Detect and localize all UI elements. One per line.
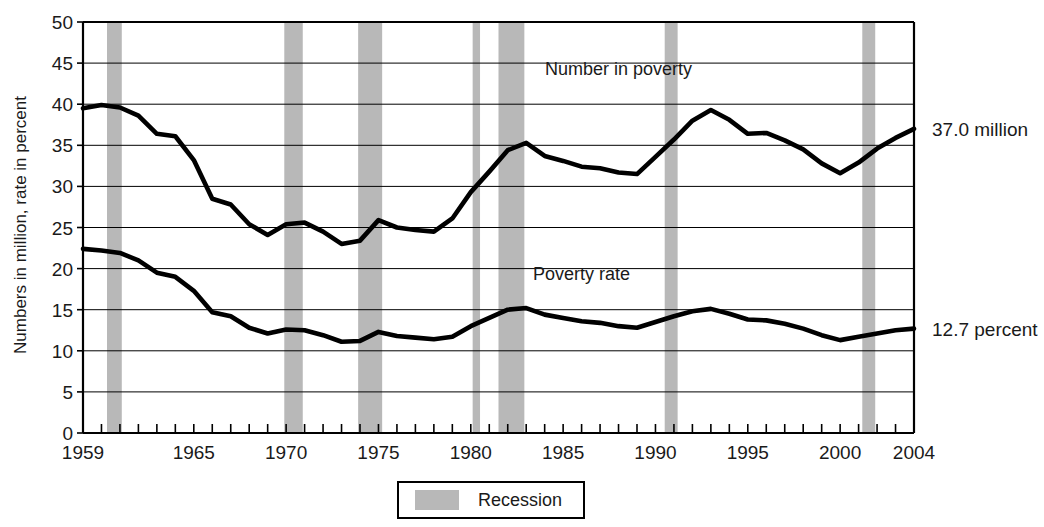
- y-tick-label: 0: [62, 423, 73, 444]
- legend-label-recession: Recession: [478, 490, 562, 510]
- y-tick-label: 30: [52, 176, 73, 197]
- x-tick-label: 1975: [357, 442, 399, 463]
- series-label-1: Poverty rate: [533, 264, 630, 284]
- y-tick-label: 50: [52, 12, 73, 33]
- x-tick-label: 2000: [819, 442, 861, 463]
- endpoint-label-0: 37.0 million: [932, 119, 1028, 140]
- x-tick-label: 1970: [265, 442, 307, 463]
- x-axis-tick-labels: 1959196519701975198019851990199520002004: [62, 442, 936, 463]
- endpoint-label-1: 12.7 percent: [932, 319, 1038, 340]
- x-tick-label: 1965: [173, 442, 215, 463]
- y-tick-label: 20: [52, 259, 73, 280]
- y-tick-label: 25: [52, 218, 73, 239]
- x-tick-label: 1985: [542, 442, 584, 463]
- y-tick-label: 5: [62, 382, 73, 403]
- poverty-chart: 50454035302520151050 1959196519701975198…: [0, 0, 1044, 527]
- x-tick-label: 1980: [450, 442, 492, 463]
- y-axis-title: Numbers in million, rate in percent: [11, 96, 30, 354]
- chart-page: 50454035302520151050 1959196519701975198…: [0, 0, 1044, 527]
- x-tick-label: 2004: [893, 442, 936, 463]
- y-tick-label: 40: [52, 94, 73, 115]
- chart-legend: Recession: [398, 482, 584, 518]
- x-tick-label: 1959: [62, 442, 104, 463]
- y-tick-label: 45: [52, 53, 73, 74]
- y-tick-label: 35: [52, 135, 73, 156]
- y-tick-label: 10: [52, 341, 73, 362]
- y-tick-label: 15: [52, 300, 73, 321]
- series-endpoint-labels: 37.0 million12.7 percent: [932, 119, 1038, 340]
- series-label-0: Number in poverty: [545, 59, 692, 79]
- x-tick-label: 1990: [634, 442, 676, 463]
- y-axis-tick-labels: 50454035302520151050: [52, 12, 83, 444]
- legend-swatch-recession: [415, 490, 459, 510]
- x-tick-label: 1995: [727, 442, 769, 463]
